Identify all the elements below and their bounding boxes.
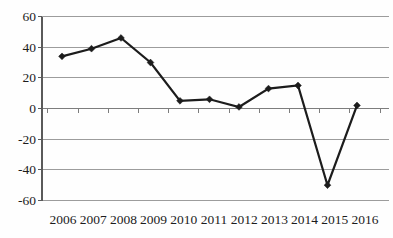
y-axis-tick-label: 60 xyxy=(23,9,37,24)
x-axis-tick-label: 2007 xyxy=(80,212,107,227)
x-axis-tick-label: 2014 xyxy=(291,212,318,227)
x-axis-tick-label: 2015 xyxy=(321,212,348,227)
x-axis-tick-label: 2010 xyxy=(170,212,197,227)
x-axis-tick-label: 2013 xyxy=(261,212,288,227)
line-chart: 6040200-20-40-60200620072008200920102011… xyxy=(0,0,393,238)
y-axis-tick-label: -40 xyxy=(18,162,36,177)
x-axis-tick-label: 2006 xyxy=(50,212,77,227)
x-axis-tick-label: 2016 xyxy=(352,212,379,227)
x-axis-tick-label: 2008 xyxy=(110,212,137,227)
y-axis-tick-label: -60 xyxy=(18,193,36,208)
line-chart-figure: 6040200-20-40-60200620072008200920102011… xyxy=(0,0,393,238)
y-axis-tick-label: 0 xyxy=(29,101,36,116)
x-axis-tick-label: 2009 xyxy=(140,212,167,227)
chart-background xyxy=(0,0,393,238)
y-axis-tick-label: 20 xyxy=(23,70,37,85)
x-axis-tick-label: 2012 xyxy=(231,212,258,227)
y-axis-tick-label: -20 xyxy=(18,132,36,147)
y-axis-tick-label: 40 xyxy=(23,40,37,55)
x-axis-tick-label: 2011 xyxy=(201,212,228,227)
